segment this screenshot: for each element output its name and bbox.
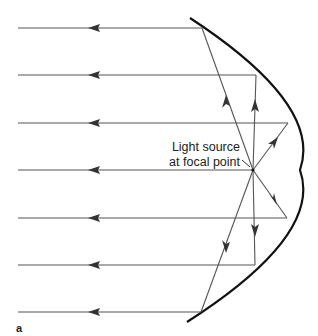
parabolic-reflector-diagram: Light source at focal point a: [0, 0, 318, 336]
figure-caption: a: [16, 322, 22, 334]
diagram-canvas: [0, 0, 318, 336]
label-line-2: at focal point: [160, 155, 240, 170]
label-pointer: [242, 160, 250, 167]
focal-point-label: Light source at focal point: [160, 140, 240, 170]
focal-point: [251, 168, 254, 171]
parallel-rays: [18, 28, 288, 312]
label-line-1: Light source: [160, 140, 240, 155]
focal-ray-arrowheads: [222, 95, 278, 253]
